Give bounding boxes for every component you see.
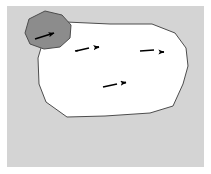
figure-root: Schematic diagram of a region with direc… xyxy=(0,0,211,174)
diagram-canvas xyxy=(7,6,204,167)
diagram-panel xyxy=(7,6,204,167)
gray-lobe-region xyxy=(25,11,71,49)
